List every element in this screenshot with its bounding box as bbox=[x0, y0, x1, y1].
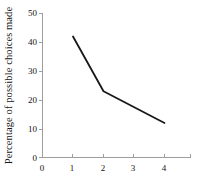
y-axis-ticks bbox=[39, 14, 43, 158]
plot-area bbox=[0, 0, 203, 186]
data-series-line bbox=[73, 37, 165, 123]
line-chart-figure: Percentage of possible choices made 50 4… bbox=[0, 0, 203, 186]
x-axis-ticks bbox=[43, 154, 191, 158]
